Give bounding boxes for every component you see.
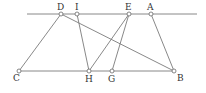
segment-DB <box>61 14 174 71</box>
segment-EG <box>112 14 129 71</box>
label-B: B <box>177 73 184 83</box>
label-E: E <box>125 2 132 12</box>
point-E <box>127 12 131 16</box>
label-D: D <box>57 2 64 12</box>
label-C: C <box>13 73 20 83</box>
label-I: I <box>75 2 79 12</box>
point-H <box>87 69 91 73</box>
label-G: G <box>108 74 115 84</box>
label-H: H <box>85 74 93 84</box>
segment-AB <box>151 14 174 71</box>
point-B <box>172 69 176 73</box>
segment-EH <box>89 14 129 71</box>
point-I <box>75 12 79 16</box>
label-A: A <box>146 2 154 12</box>
segment-DC <box>19 14 61 71</box>
geometry-diagram: D I E A C H G B <box>0 0 206 93</box>
point-G <box>110 69 114 73</box>
point-D <box>59 12 63 16</box>
point-A <box>149 12 153 16</box>
segment-IH <box>77 14 89 71</box>
